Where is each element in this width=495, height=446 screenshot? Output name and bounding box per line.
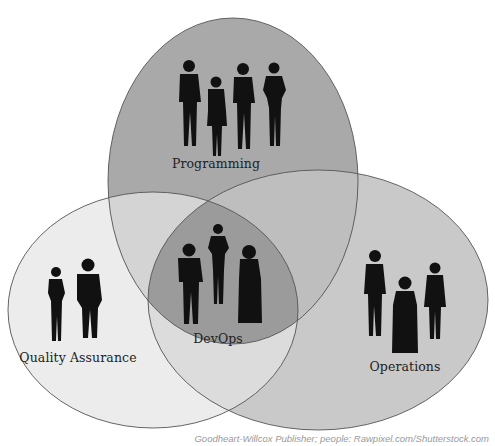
label-operations: Operations	[369, 359, 440, 374]
label-devops: DevOps	[193, 331, 243, 346]
venn-diagram	[0, 0, 495, 446]
image-credit: Goodheart-Willcox Publisher; people: Raw…	[194, 433, 489, 444]
label-quality-assurance: Quality Assurance	[19, 350, 136, 365]
label-programming: Programming	[172, 156, 260, 171]
